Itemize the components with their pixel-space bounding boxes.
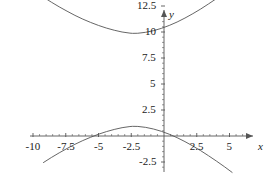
- y-tick-label: 10: [145, 26, 156, 37]
- y-tick-label: 12.5: [137, 0, 156, 11]
- x-tick-label: 5: [227, 141, 233, 152]
- x-tick-label: -10: [26, 141, 41, 152]
- x-tick-label: -2.5: [123, 141, 140, 152]
- y-axis-label: y: [169, 9, 174, 20]
- x-tick-label: -7.5: [57, 141, 74, 152]
- y-tick-label: 5: [150, 78, 156, 89]
- y-axis: [161, 6, 167, 172]
- x-tick-label: -5: [94, 141, 103, 152]
- y-tick-label: 7.5: [142, 52, 156, 63]
- x-axis: [30, 133, 253, 139]
- plot-canvas: [0, 0, 280, 180]
- plot-figure: 12.5 10 7.5 5 2.5 -2.5 -10 -7.5 -5 -2.5 …: [0, 0, 280, 180]
- x-tick-label: 2.5: [190, 141, 204, 152]
- x-axis-label: x: [258, 141, 263, 152]
- y-tick-label: 2.5: [142, 104, 156, 115]
- x-axis-arrowhead: [246, 133, 253, 139]
- y-tick-label: -2.5: [139, 156, 156, 167]
- y-axis-arrowhead: [161, 10, 167, 17]
